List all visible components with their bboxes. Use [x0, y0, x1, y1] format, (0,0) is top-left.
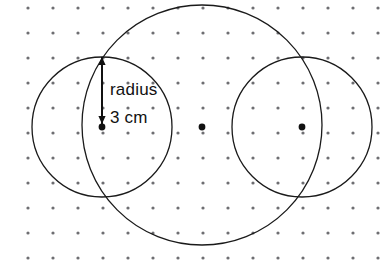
grid-dot	[301, 6, 304, 9]
middle-center-dot	[199, 124, 206, 131]
grid-dot	[251, 156, 254, 159]
grid-dot	[76, 256, 79, 259]
grid-dot	[201, 6, 204, 9]
grid-dot	[351, 81, 354, 84]
grid-dot	[376, 106, 379, 109]
grid-dot	[376, 131, 379, 134]
grid-dot	[376, 156, 379, 159]
grid-dot	[251, 131, 254, 134]
grid-dot	[276, 131, 279, 134]
grid-dot	[51, 206, 54, 209]
grid-dot	[26, 131, 29, 134]
grid-dot	[201, 231, 204, 234]
grid-dot	[326, 231, 329, 234]
grid-dot	[376, 206, 379, 209]
grid-dot	[351, 6, 354, 9]
grid-dot	[201, 206, 204, 209]
radius-word-label: radius	[110, 80, 158, 99]
grid-dot	[326, 106, 329, 109]
grid-dot	[301, 231, 304, 234]
grid-dot	[151, 6, 154, 9]
grid-dot	[176, 181, 179, 184]
grid-dot	[176, 31, 179, 34]
grid-dot	[301, 181, 304, 184]
grid-dot	[251, 181, 254, 184]
grid-dot	[251, 56, 254, 59]
right-center-dot	[299, 124, 306, 131]
grid-dot	[76, 6, 79, 9]
grid-dot	[301, 206, 304, 209]
grid-dot	[51, 31, 54, 34]
grid-dot	[376, 31, 379, 34]
grid-dot	[326, 256, 329, 259]
grid-dot	[151, 56, 154, 59]
grid-dot	[126, 181, 129, 184]
grid-dot	[226, 81, 229, 84]
grid-dot	[76, 206, 79, 209]
grid-dot	[176, 131, 179, 134]
grid-dot	[176, 81, 179, 84]
grid-dot	[326, 6, 329, 9]
grid-dot	[201, 31, 204, 34]
grid-dot	[126, 156, 129, 159]
grid-dot	[76, 31, 79, 34]
grid-dot	[26, 206, 29, 209]
grid-dot	[276, 156, 279, 159]
grid-dot	[201, 106, 204, 109]
grid-dot	[176, 156, 179, 159]
grid-dot	[176, 231, 179, 234]
grid-dot	[26, 31, 29, 34]
grid-dot	[101, 181, 104, 184]
grid-dot	[351, 56, 354, 59]
grid-dot	[76, 131, 79, 134]
grid-dot	[126, 206, 129, 209]
grid-dot	[151, 181, 154, 184]
grid-dot	[226, 256, 229, 259]
grid-dot	[26, 81, 29, 84]
grid-dot	[26, 156, 29, 159]
grid-dot	[326, 31, 329, 34]
grid-dot	[76, 181, 79, 184]
grid-dot	[51, 256, 54, 259]
grid-dot	[276, 56, 279, 59]
grid-dot	[151, 156, 154, 159]
grid-dot	[351, 181, 354, 184]
grid-dot	[201, 156, 204, 159]
grid-dot	[151, 106, 154, 109]
grid-dot	[176, 56, 179, 59]
grid-dot	[51, 106, 54, 109]
grid-dot	[251, 256, 254, 259]
grid-dot	[76, 156, 79, 159]
grid-dot	[326, 56, 329, 59]
radius-value-label: 3 cm	[110, 108, 148, 127]
dot-grid	[26, 6, 379, 259]
grid-dot	[226, 106, 229, 109]
diagram-canvas: radius 3 cm	[0, 0, 388, 262]
grid-dot	[276, 256, 279, 259]
grid-dot	[51, 181, 54, 184]
grid-dot	[201, 256, 204, 259]
grid-dot	[176, 106, 179, 109]
grid-dot	[151, 31, 154, 34]
grid-dot	[51, 81, 54, 84]
grid-dot	[276, 81, 279, 84]
grid-dot	[26, 56, 29, 59]
grid-dot	[376, 256, 379, 259]
grid-dot	[326, 156, 329, 159]
grid-dot	[276, 106, 279, 109]
grid-dot	[51, 6, 54, 9]
grid-dot	[326, 181, 329, 184]
grid-dot	[51, 156, 54, 159]
grid-dot	[351, 231, 354, 234]
radius-arrow-head-bottom-icon	[98, 116, 105, 124]
grid-dot	[351, 206, 354, 209]
grid-dot	[201, 181, 204, 184]
grid-dot	[76, 106, 79, 109]
grid-dot	[351, 106, 354, 109]
grid-dot	[301, 106, 304, 109]
grid-dot	[376, 181, 379, 184]
grid-dot	[326, 206, 329, 209]
radius-arrow-group	[98, 57, 105, 124]
grid-dot	[251, 206, 254, 209]
grid-dot	[151, 256, 154, 259]
